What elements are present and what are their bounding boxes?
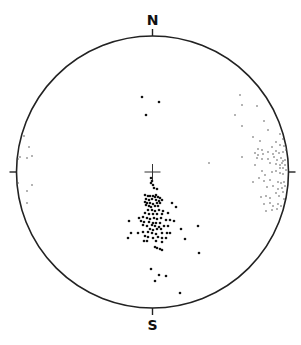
- pole-point: [159, 222, 162, 225]
- pole-point: [275, 170, 277, 172]
- pole-point: [257, 154, 259, 156]
- pole-point: [266, 186, 268, 188]
- pole-point: [158, 209, 161, 212]
- pole-point: [151, 198, 154, 201]
- pole-point: [265, 210, 267, 212]
- pole-point: [142, 231, 145, 234]
- pole-point: [161, 241, 164, 244]
- pole-point: [146, 240, 149, 243]
- pole-point: [152, 203, 155, 206]
- pole-point: [142, 216, 145, 219]
- pole-point: [156, 213, 159, 216]
- pole-point: [26, 157, 28, 159]
- pole-point: [279, 164, 281, 166]
- north-label: N: [147, 13, 159, 27]
- pole-point: [169, 219, 172, 222]
- pole-point: [156, 228, 159, 231]
- pole-point: [142, 224, 145, 227]
- pole-point: [146, 217, 149, 220]
- pole-point: [155, 222, 158, 225]
- pole-point: [252, 136, 254, 138]
- light-pole-points: [17, 94, 287, 212]
- pole-point: [153, 187, 156, 190]
- pole-point: [272, 185, 274, 187]
- pole-point: [254, 152, 256, 154]
- pole-point: [281, 187, 283, 189]
- pole-point: [239, 94, 241, 96]
- pole-point: [264, 174, 266, 176]
- pole-point: [145, 204, 148, 207]
- pole-point: [165, 275, 168, 278]
- pole-point: [269, 202, 271, 204]
- pole-point: [280, 182, 282, 184]
- pole-point: [279, 133, 281, 135]
- pole-point: [145, 114, 148, 117]
- pole-point: [161, 232, 164, 235]
- pole-point: [159, 197, 162, 200]
- pole-point: [130, 232, 133, 235]
- pole-point: [282, 151, 284, 153]
- pole-point: [146, 225, 149, 228]
- pole-point: [150, 177, 153, 180]
- pole-point: [128, 220, 131, 223]
- pole-point: [272, 205, 274, 207]
- pole-point: [148, 213, 151, 216]
- pole-point: [257, 148, 259, 150]
- pole-point: [157, 236, 160, 239]
- pole-point: [156, 202, 159, 205]
- pole-point: [158, 226, 161, 229]
- pole-point: [279, 144, 281, 146]
- pole-point: [154, 280, 157, 283]
- pole-point: [285, 149, 287, 151]
- pole-point: [171, 202, 174, 205]
- pole-point: [234, 114, 236, 116]
- pole-point: [165, 219, 168, 222]
- pole-point: [275, 192, 277, 194]
- pole-point: [267, 151, 269, 153]
- pole-point: [277, 188, 279, 190]
- pole-point: [144, 212, 147, 215]
- pole-point: [151, 232, 154, 235]
- pole-point: [149, 228, 152, 231]
- pole-point: [149, 195, 152, 198]
- dark-pole-points: [127, 96, 201, 295]
- pole-point: [147, 236, 150, 239]
- pole-point: [208, 162, 210, 164]
- pole-point: [282, 138, 284, 140]
- pole-point: [284, 185, 286, 187]
- pole-point: [267, 129, 269, 131]
- pole-point: [179, 292, 182, 295]
- pole-point: [180, 228, 183, 231]
- pole-point: [144, 194, 147, 197]
- pole-point: [263, 203, 265, 205]
- pole-point: [151, 209, 154, 212]
- pole-point: [148, 199, 151, 202]
- pole-point: [269, 179, 271, 181]
- pole-point: [284, 164, 286, 166]
- pole-point: [137, 232, 140, 235]
- pole-point: [154, 205, 157, 208]
- pole-point: [28, 146, 30, 148]
- pole-point: [160, 228, 163, 231]
- pole-point: [17, 158, 19, 160]
- pole-point: [162, 210, 165, 213]
- pole-point: [31, 184, 33, 186]
- pole-point: [156, 188, 159, 191]
- pole-point: [141, 96, 144, 99]
- pole-point: [284, 159, 286, 161]
- pole-point: [269, 197, 271, 199]
- pole-point: [163, 225, 166, 228]
- pole-point: [17, 182, 19, 184]
- pole-point: [281, 162, 283, 164]
- pole-point: [31, 155, 33, 157]
- pole-point: [276, 208, 278, 210]
- pole-point: [161, 237, 164, 240]
- pole-point: [145, 198, 148, 201]
- pole-point: [140, 220, 143, 223]
- pole-point: [261, 170, 263, 172]
- pole-point: [167, 225, 170, 228]
- pole-point: [158, 101, 161, 104]
- pole-point: [263, 120, 265, 122]
- pole-point: [283, 145, 285, 147]
- pole-point: [184, 238, 187, 241]
